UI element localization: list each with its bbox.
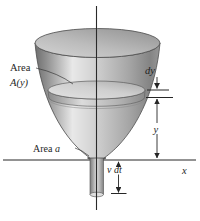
dy-label: dy bbox=[145, 65, 155, 76]
y-label: y bbox=[153, 124, 159, 135]
vdt-label: v dt bbox=[107, 164, 122, 175]
upper-area-label-symbol: A(y) bbox=[9, 77, 29, 89]
top-rim-surface bbox=[35, 29, 160, 58]
upper-area-label-word: Area bbox=[10, 62, 31, 73]
outlet-area-label-symbol: a bbox=[55, 143, 60, 154]
water-clock-diagram: Area A(y) Area a dy y v dt x bbox=[0, 0, 200, 221]
x-axis-label: x bbox=[181, 165, 187, 176]
water-clock-figure: Area A(y) Area a dy y v dt x bbox=[0, 0, 200, 221]
outlet-area-label: Area a bbox=[33, 143, 60, 154]
outlet-area-label-word: Area bbox=[33, 143, 55, 154]
